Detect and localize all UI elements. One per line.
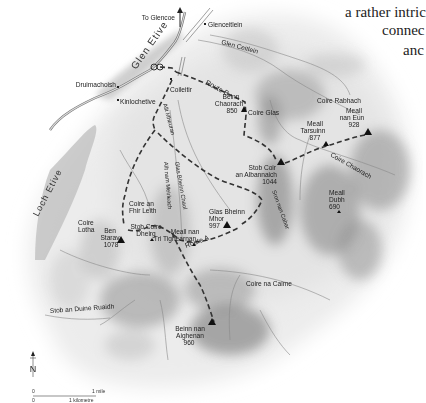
coire-na-caime-label: Coire na Caime	[246, 280, 292, 287]
svg-text:1 mile: 1 mile	[92, 388, 106, 394]
svg-text:Meall: Meall	[329, 189, 345, 196]
coire-glas-label: Coire Glas	[248, 109, 280, 116]
svg-text:0: 0	[32, 397, 35, 403]
svg-text:Dubh: Dubh	[329, 196, 345, 203]
svg-text:Meall: Meall	[346, 107, 362, 114]
svg-text:Meall: Meall	[307, 120, 323, 127]
svg-text:Fhir Leith: Fhir Leith	[129, 207, 157, 214]
svg-text:Starav: Starav	[100, 234, 120, 241]
svg-text:690: 690	[329, 203, 340, 210]
svg-text:Coileitir: Coileitir	[170, 86, 193, 93]
svg-text:Glas Bheinn: Glas Bheinn	[209, 208, 245, 215]
svg-text:Stob Coire: Stob Coire	[130, 223, 161, 230]
to-glencoe-label: To Glencoe	[142, 14, 176, 21]
svg-text:Lotha: Lotha	[78, 226, 95, 233]
svg-text:877: 877	[309, 134, 320, 141]
svg-text:nan Eun: nan Eun	[340, 114, 365, 121]
svg-text:Tri Tighearnan: Tri Tighearnan	[154, 235, 197, 243]
svg-text:Beinn nan: Beinn nan	[175, 325, 205, 332]
svg-text:928: 928	[348, 121, 359, 128]
svg-text:1078: 1078	[104, 241, 119, 248]
settlement-kinlochetive: Kinlochetive	[117, 98, 156, 105]
svg-text:Stob Coir: Stob Coir	[249, 164, 277, 171]
svg-text:Chaorach: Chaorach	[215, 100, 244, 107]
scale-bar: 0 1 mile 0 1 kilometre	[32, 388, 106, 403]
svg-text:1 kilometre: 1 kilometre	[69, 397, 94, 403]
svg-text:Beinn: Beinn	[223, 93, 240, 100]
svg-text:an Albannaich: an Albannaich	[236, 171, 278, 178]
svg-text:Glenceitlein: Glenceitlein	[208, 21, 243, 28]
svg-text:Druimachoish: Druimachoish	[76, 81, 117, 88]
svg-text:Tarsuinn: Tarsuinn	[301, 127, 326, 134]
svg-text:1044: 1044	[262, 178, 277, 185]
settlement-druimachoish: Druimachoish	[76, 81, 119, 88]
svg-text:Coire: Coire	[78, 219, 94, 226]
svg-text:960: 960	[183, 339, 194, 346]
settlement-glenceitlein: Glenceitlein	[204, 21, 243, 28]
svg-text:Kinlochetive: Kinlochetive	[120, 98, 156, 105]
svg-text:0: 0	[32, 388, 35, 394]
svg-text:Ben: Ben	[104, 227, 116, 234]
svg-text:Mhor: Mhor	[209, 215, 225, 222]
svg-text:997: 997	[209, 222, 220, 229]
coire-lotha-label: Coire Lotha Coire Lotha	[78, 219, 95, 233]
svg-text:Coire an: Coire an	[129, 200, 154, 207]
svg-text:850: 850	[226, 107, 237, 114]
north-label: N	[30, 364, 37, 374]
coire-an-fhir-leith-label: Coire an Fhir Leith Coire an Fhir Leith	[129, 200, 157, 214]
coire-rabhach-label: Coire Rabhach	[317, 97, 361, 104]
north-arrow-icon: N	[30, 351, 37, 377]
svg-text:Meall nan: Meall nan	[171, 228, 200, 235]
